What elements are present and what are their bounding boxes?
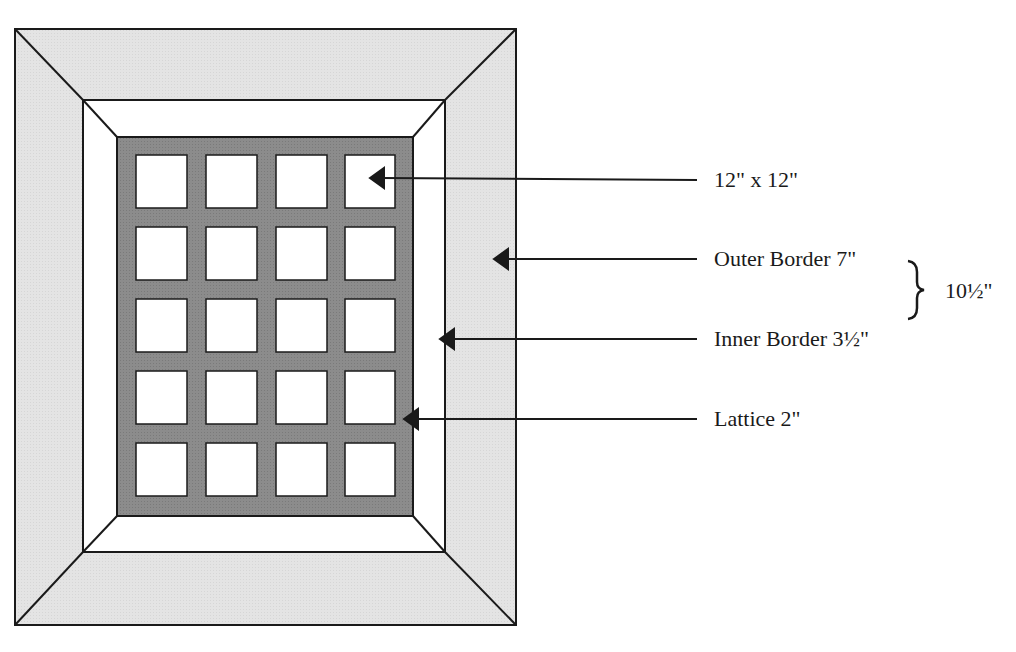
quilt-block xyxy=(345,155,395,208)
label-outer-border: Outer Border 7" xyxy=(714,246,856,271)
quilt-block xyxy=(345,443,395,496)
quilt-block xyxy=(345,227,395,280)
quilt-block xyxy=(276,155,327,208)
quilt-block xyxy=(136,371,187,424)
quilt-block xyxy=(276,227,327,280)
quilt-diagram: 12" x 12" Outer Border 7" Inner Border 3… xyxy=(0,0,1016,652)
quilt-block xyxy=(136,299,187,352)
quilt-block xyxy=(136,227,187,280)
quilt-block xyxy=(345,371,395,424)
brace-icon xyxy=(908,261,924,319)
quilt-block xyxy=(206,227,257,280)
label-lattice: Lattice 2" xyxy=(714,406,801,431)
label-combined-border: 10½" xyxy=(945,278,992,303)
quilt-block xyxy=(136,155,187,208)
quilt-block xyxy=(136,443,187,496)
quilt-block xyxy=(206,155,257,208)
quilt-block xyxy=(276,299,327,352)
label-inner-border: Inner Border 3½" xyxy=(714,326,869,351)
quilt-block xyxy=(206,371,257,424)
quilt-block xyxy=(276,371,327,424)
quilt-block xyxy=(345,299,395,352)
label-block-size: 12" x 12" xyxy=(714,167,798,192)
quilt-block xyxy=(206,299,257,352)
quilt-block xyxy=(206,443,257,496)
quilt-block xyxy=(276,443,327,496)
